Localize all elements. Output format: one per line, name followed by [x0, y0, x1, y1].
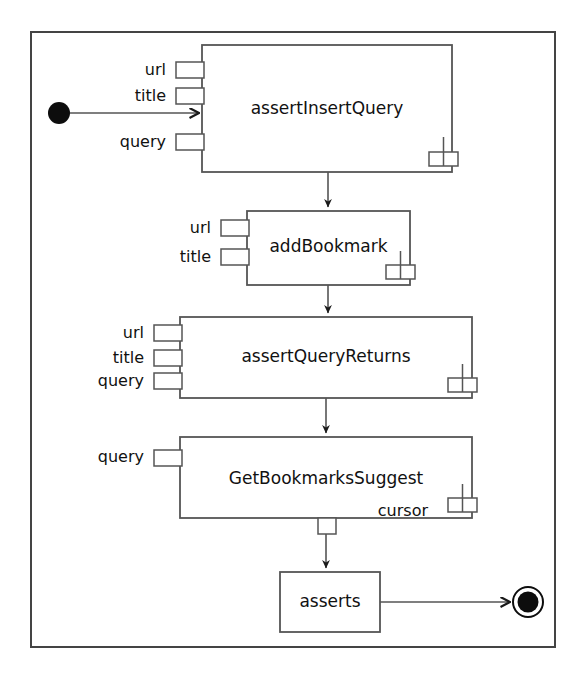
activity-final-node: [513, 587, 543, 617]
input-pin-query: [154, 450, 182, 466]
output-pin-label-cursor: cursor: [358, 503, 428, 519]
input-pin-url: [154, 325, 182, 341]
pin-label-query: query: [74, 373, 144, 389]
input-pin-url: [176, 62, 204, 78]
action-name-assertqueryreturns: assertQueryReturns: [180, 348, 472, 365]
pin-label-url: url: [96, 62, 166, 78]
output-pin-cursor: [318, 518, 336, 534]
input-pin-title: [154, 350, 182, 366]
action-name-assertinsertquery: assertInsertQuery: [202, 100, 452, 117]
input-pin-query: [176, 134, 204, 150]
input-pin-title: [176, 88, 204, 104]
activity-diagram-canvas: assertInsertQuery url title query addBoo…: [0, 0, 583, 680]
pin-label-title: title: [96, 88, 166, 104]
input-pin-query: [154, 373, 182, 389]
pin-label-title: title: [141, 249, 211, 265]
input-pin-url: [221, 220, 249, 236]
initial-node: [48, 102, 70, 124]
action-name-getbookmarkssuggest: GetBookmarksSuggest: [180, 470, 472, 487]
pin-label-query: query: [96, 134, 166, 150]
pin-label-url: url: [141, 220, 211, 236]
input-pin-title: [221, 249, 249, 265]
action-name-asserts: asserts: [280, 593, 380, 610]
pin-label-url: url: [74, 325, 144, 341]
action-name-addbookmark: addBookmark: [247, 238, 410, 255]
pin-label-query: query: [74, 449, 144, 465]
pin-label-title: title: [74, 350, 144, 366]
